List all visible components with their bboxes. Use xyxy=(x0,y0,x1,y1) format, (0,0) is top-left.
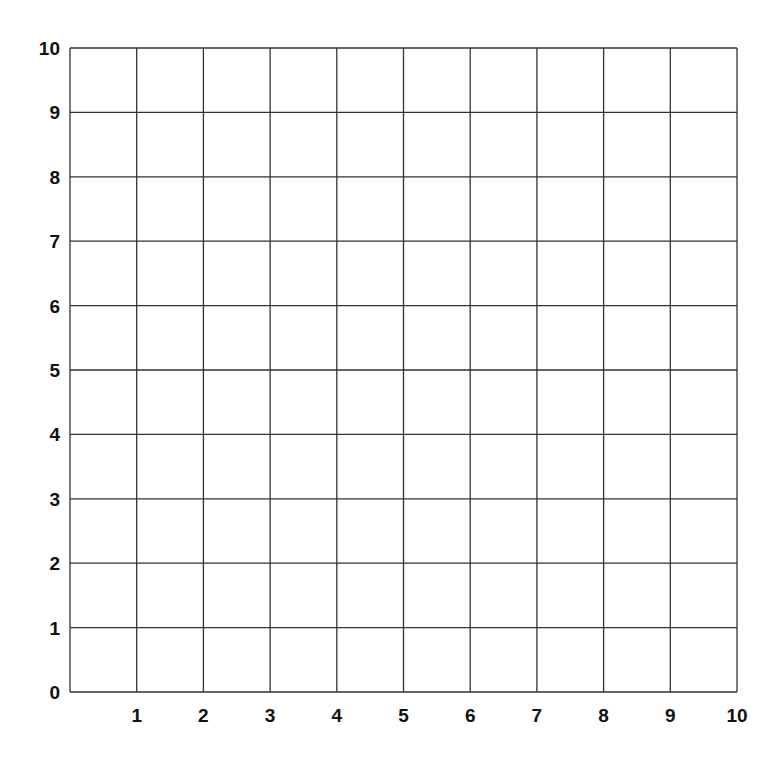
grid-lines xyxy=(70,48,737,692)
coordinate-grid: 012345678910 12345678910 xyxy=(0,0,777,757)
x-tick-label: 3 xyxy=(265,705,276,726)
x-tick-label: 9 xyxy=(665,705,676,726)
y-tick-label: 7 xyxy=(49,231,60,252)
x-tick-label: 7 xyxy=(532,705,543,726)
x-tick-label: 2 xyxy=(198,705,209,726)
y-tick-label: 8 xyxy=(49,167,60,188)
x-tick-label: 1 xyxy=(131,705,142,726)
y-tick-label: 10 xyxy=(39,38,60,59)
y-tick-label: 5 xyxy=(49,360,60,381)
y-tick-label: 6 xyxy=(49,296,60,317)
x-axis-labels: 12345678910 xyxy=(131,705,747,726)
y-axis-labels: 012345678910 xyxy=(39,38,61,703)
x-tick-label: 5 xyxy=(398,705,409,726)
x-tick-label: 4 xyxy=(332,705,343,726)
y-tick-label: 3 xyxy=(49,489,60,510)
y-tick-label: 0 xyxy=(49,682,60,703)
y-tick-label: 1 xyxy=(49,618,60,639)
y-tick-label: 4 xyxy=(49,424,60,445)
x-tick-label: 6 xyxy=(465,705,476,726)
y-tick-label: 2 xyxy=(49,553,60,574)
y-tick-label: 9 xyxy=(49,102,60,123)
x-tick-label: 8 xyxy=(598,705,609,726)
x-tick-label: 10 xyxy=(726,705,747,726)
